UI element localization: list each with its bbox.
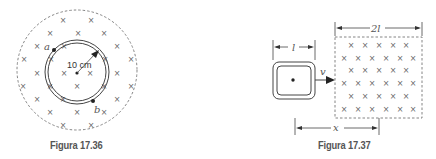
svg-text:×: × xyxy=(376,92,383,101)
svg-text:×: × xyxy=(60,121,67,130)
svg-text:×: × xyxy=(114,95,121,104)
field-width-arrow-left xyxy=(336,26,342,30)
svg-text:×: × xyxy=(362,66,369,75)
svg-text:×: × xyxy=(348,66,355,75)
point-a-dot xyxy=(52,48,56,52)
svg-text:×: × xyxy=(376,66,383,75)
distance-arrow-left xyxy=(296,126,302,130)
radius-label: 10 cm xyxy=(67,60,92,70)
field-width-label: 2l xyxy=(370,23,381,34)
svg-text:×: × xyxy=(75,29,82,38)
loop-center-dot xyxy=(291,78,294,81)
svg-text:×: × xyxy=(88,121,95,130)
distance-arrow-right xyxy=(372,126,378,130)
svg-text:×: × xyxy=(101,108,108,117)
figure-17-36-diagram: ×× ××× ××× ×××× ×××× ××××× ××× ××× ×× a … xyxy=(17,10,137,130)
svg-text:×: × xyxy=(362,92,369,101)
svg-text:×: × xyxy=(341,105,348,114)
distance-label: x xyxy=(333,122,339,133)
svg-text:×: × xyxy=(341,54,348,63)
svg-text:×: × xyxy=(383,54,390,63)
svg-text:×: × xyxy=(383,105,390,114)
svg-text:×: × xyxy=(60,16,67,25)
svg-text:×: × xyxy=(21,55,28,64)
svg-text:×: × xyxy=(369,54,376,63)
svg-text:×: × xyxy=(390,92,397,101)
svg-text:×: × xyxy=(355,54,362,63)
svg-text:×: × xyxy=(34,69,41,78)
svg-text:×: × xyxy=(61,69,68,78)
svg-text:×: × xyxy=(397,105,404,114)
velocity-label: v xyxy=(320,66,326,77)
figure-17-36: ×× ××× ××× ×××× ×××× ××××× ××× ××× ×× a … xyxy=(0,0,436,159)
svg-text:×: × xyxy=(403,92,410,101)
svg-text:×: × xyxy=(369,79,376,88)
svg-text:×: × xyxy=(397,79,404,88)
svg-text:×: × xyxy=(362,41,369,50)
svg-text:×: × xyxy=(47,108,54,117)
svg-text:×: × xyxy=(88,16,95,25)
loop-side-arrow-right xyxy=(308,45,314,49)
svg-text:×: × xyxy=(34,42,41,51)
svg-text:×: × xyxy=(369,105,376,114)
svg-text:×: × xyxy=(348,92,355,101)
svg-text:×: × xyxy=(74,108,81,117)
loop-side-arrow-left xyxy=(274,45,280,49)
svg-text:×: × xyxy=(376,41,383,50)
svg-text:×: × xyxy=(390,66,397,75)
svg-text:×: × xyxy=(403,41,410,50)
svg-text:×: × xyxy=(101,29,108,38)
svg-text:×: × xyxy=(74,82,81,91)
point-b-label: b xyxy=(94,104,100,115)
svg-text:×: × xyxy=(383,79,390,88)
svg-text:×: × xyxy=(355,79,362,88)
point-b-dot xyxy=(91,99,95,103)
field-width-arrow-right xyxy=(415,26,421,30)
svg-text:×: × xyxy=(390,41,397,50)
figure-17-37-caption: Figura 17.37 xyxy=(318,139,371,151)
loop-side-label: l xyxy=(292,42,295,53)
point-a-label: a xyxy=(44,41,50,52)
velocity-arrowhead xyxy=(326,76,335,84)
svg-text:×: × xyxy=(34,95,41,104)
svg-text:×: × xyxy=(410,79,417,88)
svg-text:×: × xyxy=(114,42,121,51)
svg-text:×: × xyxy=(397,54,404,63)
svg-text:×: × xyxy=(410,105,417,114)
field-x-marks: ××××× ×××××× ××××× ×××××× ××××× ×××××× xyxy=(341,41,417,114)
figure-17-36-caption: Figura 17.36 xyxy=(50,139,103,151)
svg-text:×: × xyxy=(128,82,135,91)
svg-text:×: × xyxy=(114,69,121,78)
svg-text:×: × xyxy=(341,79,348,88)
svg-text:×: × xyxy=(410,54,417,63)
svg-text:×: × xyxy=(403,66,410,75)
svg-text:×: × xyxy=(128,55,135,64)
svg-text:×: × xyxy=(87,69,94,78)
svg-text:×: × xyxy=(47,29,54,38)
svg-text:×: × xyxy=(20,82,27,91)
svg-text:×: × xyxy=(355,105,362,114)
svg-text:×: × xyxy=(348,41,355,50)
figure-17-37-diagram: l v ××××× ×××××× ××××× ×××××× ××××× ××××… xyxy=(273,22,422,135)
